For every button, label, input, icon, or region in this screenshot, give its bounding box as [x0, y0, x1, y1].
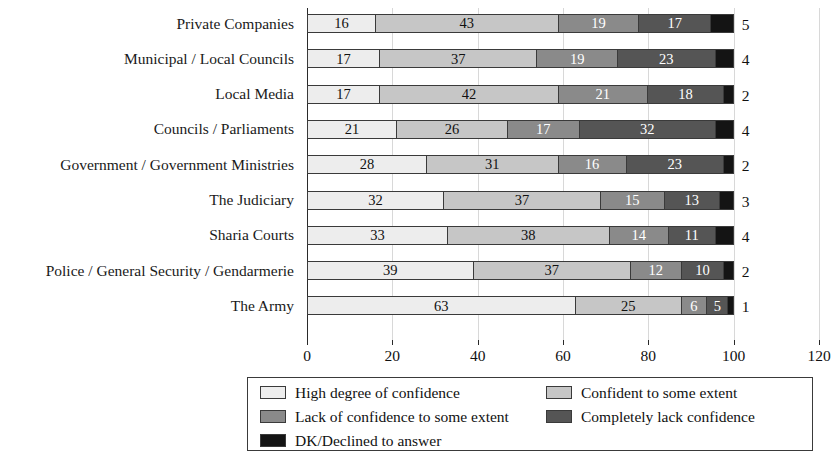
- segment-value-label: 33: [370, 228, 385, 243]
- category-label-6: Sharia Courts: [209, 227, 294, 243]
- plot-area: Private CompaniesMunicipal / Local Counc…: [0, 0, 820, 370]
- legend-swatch-icon: [546, 386, 572, 399]
- bar-segment: 23: [627, 156, 725, 173]
- segment-value-label: 6: [690, 299, 697, 314]
- segment-value-label: 63: [434, 299, 449, 314]
- segment-value-label: 32: [640, 122, 655, 137]
- bar-segment: 23: [618, 50, 716, 67]
- tick-label-0: 0: [303, 347, 311, 365]
- bar-segment: 42: [380, 86, 558, 103]
- segment-value-label: 15: [625, 193, 640, 208]
- legend-swatch-icon: [546, 410, 572, 423]
- bar-row: 632565: [307, 296, 734, 315]
- bar-segment: 33: [308, 227, 448, 244]
- legend-label: Lack of confidence to some extent: [295, 409, 509, 425]
- legend-item[interactable]: Confident to some extent: [546, 385, 737, 401]
- segment-value-label: 31: [485, 157, 500, 172]
- bar-segment: 37: [444, 192, 601, 209]
- segment-value-label: 19: [591, 16, 606, 31]
- bar-row: 32371513: [307, 191, 734, 210]
- bar-segment: 19: [559, 15, 640, 32]
- bar-segment: 12: [631, 262, 682, 279]
- dk-value-label: 4: [742, 229, 750, 245]
- bar-segment: 15: [601, 192, 665, 209]
- bar-segment: 14: [610, 227, 669, 244]
- segment-value-label: 5: [714, 299, 721, 314]
- segment-value-label: 43: [460, 16, 475, 31]
- bar-segment: 31: [427, 156, 559, 173]
- dk-value-label: 2: [742, 158, 750, 174]
- dk-value-label: 5: [742, 17, 750, 33]
- category-label-8: The Army: [231, 298, 294, 314]
- bar-segment: 6: [682, 297, 707, 314]
- tick-120: [819, 340, 820, 345]
- dk-value-label: 4: [742, 52, 750, 68]
- tick-0: [307, 340, 308, 345]
- tick-label-20: 20: [385, 347, 401, 365]
- gridline-120: [819, 8, 820, 340]
- segment-value-label: 23: [659, 52, 674, 67]
- segment-value-label: 21: [595, 87, 610, 102]
- legend-item[interactable]: High degree of confidence: [260, 385, 460, 401]
- tick-80: [648, 340, 649, 345]
- bar-segment: [716, 50, 733, 67]
- bar-segment: [724, 86, 732, 103]
- segment-value-label: 12: [648, 263, 663, 278]
- bar-segment: 17: [508, 121, 580, 138]
- dk-value-label: 1: [742, 299, 750, 315]
- bar-segment: 38: [448, 227, 609, 244]
- segment-value-label: 17: [336, 52, 351, 67]
- segment-value-label: 37: [544, 263, 559, 278]
- legend-item[interactable]: Completely lack confidence: [546, 409, 755, 425]
- segment-value-label: 11: [685, 228, 699, 243]
- category-label-7: Police / General Security / Gendarmerie: [46, 263, 294, 279]
- legend-label: Completely lack confidence: [581, 409, 755, 425]
- tick-label-80: 80: [641, 347, 657, 365]
- segment-value-label: 39: [383, 263, 398, 278]
- legend-label: DK/Declined to answer: [295, 433, 441, 449]
- bar-segment: 21: [559, 86, 648, 103]
- bar-row: 39371210: [307, 261, 734, 280]
- category-label-1: Municipal / Local Councils: [124, 51, 294, 67]
- bar-row: 16431917: [307, 14, 734, 33]
- category-axis-labels: Private CompaniesMunicipal / Local Counc…: [0, 0, 300, 340]
- tick-label-40: 40: [470, 347, 486, 365]
- segment-value-label: 23: [668, 157, 683, 172]
- bar-segment: [716, 121, 733, 138]
- bar-segment: 16: [308, 15, 376, 32]
- segment-value-label: 18: [678, 87, 693, 102]
- bar-segment: 16: [559, 156, 627, 173]
- segment-value-label: 10: [695, 263, 710, 278]
- bar-segment: 37: [380, 50, 537, 67]
- bar-segment: 11: [669, 227, 716, 244]
- bar-segment: 28: [308, 156, 427, 173]
- dk-value-label: 4: [742, 123, 750, 139]
- bar-row: 17422118: [307, 85, 734, 104]
- bar-segment: 32: [308, 192, 444, 209]
- bar-segment: 39: [308, 262, 474, 279]
- bar-segment: 19: [537, 50, 618, 67]
- bar-segment: 21: [308, 121, 397, 138]
- category-label-3: Councils / Parliaments: [154, 121, 294, 137]
- bar-segment: 32: [580, 121, 716, 138]
- segment-value-label: 26: [445, 122, 460, 137]
- legend-item[interactable]: Lack of confidence to some extent: [260, 409, 509, 425]
- legend-item[interactable]: DK/Declined to answer: [260, 433, 441, 449]
- bar-segment: 18: [648, 86, 724, 103]
- category-label-0: Private Companies: [176, 16, 294, 32]
- segment-value-label: 38: [521, 228, 536, 243]
- category-label-2: Local Media: [215, 86, 294, 102]
- bar-row: 21261732: [307, 120, 734, 139]
- category-label-4: Government / Government Ministries: [60, 157, 294, 173]
- tick-label-100: 100: [722, 347, 745, 365]
- legend-label: High degree of confidence: [295, 385, 460, 401]
- legend-label: Confident to some extent: [581, 385, 737, 401]
- legend-swatch-icon: [260, 410, 286, 423]
- segment-value-label: 37: [515, 193, 530, 208]
- bar-segment: 25: [576, 297, 682, 314]
- segment-value-label: 37: [451, 52, 466, 67]
- dk-value-label: 3: [742, 194, 750, 210]
- segment-value-label: 19: [570, 52, 585, 67]
- bar-segment: [716, 227, 733, 244]
- bar-segment: 43: [376, 15, 559, 32]
